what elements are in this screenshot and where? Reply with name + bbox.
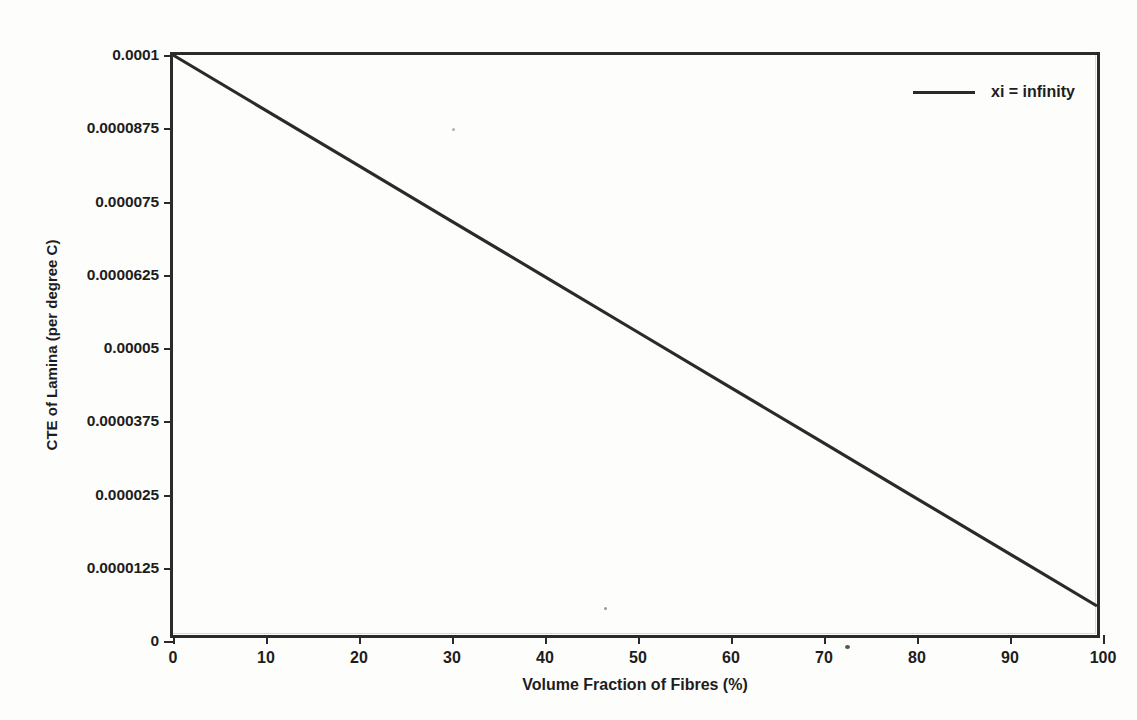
legend-line-swatch xyxy=(913,91,975,94)
x-axis-tick-label: 80 xyxy=(908,649,926,667)
y-axis-tick xyxy=(164,568,173,570)
x-axis-tick xyxy=(1103,635,1105,644)
x-axis-tick-label: 90 xyxy=(1001,649,1019,667)
x-axis-tick-label: 60 xyxy=(722,649,740,667)
y-axis-tick xyxy=(164,641,173,643)
x-axis-title: Volume Fraction of Fibres (%) xyxy=(170,676,1100,694)
legend: xi = infinity xyxy=(913,83,1075,101)
y-axis-tick xyxy=(164,55,173,57)
y-axis-title: CTE of Lamina (per degree C) xyxy=(39,52,65,638)
scan-artifact-dot xyxy=(452,128,455,131)
y-axis-tick-label: 0.0000125 xyxy=(87,559,159,577)
y-axis-tick-label: 0 xyxy=(150,632,159,650)
x-axis-tick xyxy=(452,635,454,644)
x-axis-tick xyxy=(731,635,733,644)
y-axis-tick-label: 0.0000375 xyxy=(87,412,159,430)
x-axis-tick-label: 40 xyxy=(536,649,554,667)
scan-artifact-dot xyxy=(604,607,607,610)
x-axis-tick xyxy=(638,635,640,644)
data-line-layer xyxy=(173,55,1097,635)
y-axis-tick xyxy=(164,128,173,130)
x-axis-tick xyxy=(1010,635,1012,644)
x-axis-tick xyxy=(824,635,826,644)
x-axis-tick xyxy=(173,635,175,644)
y-axis-tick-label: 0.00005 xyxy=(104,339,159,357)
series-line-xi-infinity xyxy=(173,55,1097,606)
y-axis-tick xyxy=(164,421,173,423)
y-axis-tick-label: 0.0000875 xyxy=(87,119,159,137)
x-axis-tick xyxy=(545,635,547,644)
plot-area: 00.00001250.0000250.00003750.000050.0000… xyxy=(170,52,1100,638)
x-axis-tick xyxy=(266,635,268,644)
y-axis-tick-label: 0.000075 xyxy=(95,193,159,211)
x-axis-tick xyxy=(917,635,919,644)
x-axis-tick xyxy=(359,635,361,644)
x-axis-tick-label: 70 xyxy=(815,649,833,667)
x-axis-tick-label: 20 xyxy=(350,649,368,667)
x-axis-tick-label: 50 xyxy=(629,649,647,667)
x-axis-tick-label: 30 xyxy=(443,649,461,667)
scan-artifact-dot xyxy=(845,645,850,649)
chart-page: CTE of Lamina (per degree C) Volume Frac… xyxy=(0,0,1137,720)
y-axis-tick xyxy=(164,495,173,497)
x-axis-tick-label: 10 xyxy=(257,649,275,667)
y-axis-tick-label: 0.0001 xyxy=(112,46,159,64)
x-axis-tick-label: 100 xyxy=(1090,649,1117,667)
legend-label-xi-infinity: xi = infinity xyxy=(991,83,1075,101)
x-axis-tick-label: 0 xyxy=(169,649,178,667)
y-axis-tick xyxy=(164,348,173,350)
y-axis-tick xyxy=(164,202,173,204)
y-axis-tick-label: 0.000025 xyxy=(95,486,159,504)
y-axis-tick-label: 0.0000625 xyxy=(87,266,159,284)
y-axis-tick xyxy=(164,275,173,277)
